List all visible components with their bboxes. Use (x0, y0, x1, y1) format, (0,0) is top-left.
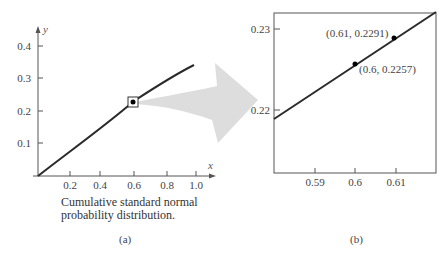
panel-b-label: (b) (350, 233, 363, 245)
x-tick-label: 0.6 (127, 179, 141, 191)
x-tick-label: 0.4 (93, 179, 107, 191)
caption-line-2: probability distribution. (61, 209, 198, 222)
b-x-tick-label: 0.6 (348, 176, 362, 188)
zoom-arrow-icon (136, 63, 258, 143)
y-axis-arrowhead-icon (36, 26, 41, 33)
b-x-tick-label: 0.59 (305, 176, 325, 188)
y-tick-label: 0.2 (17, 105, 31, 117)
y-tick-label: 0.3 (17, 72, 31, 84)
panel-a-caption: Cumulative standard normal probability d… (61, 196, 198, 222)
y-tick-label: 0.1 (17, 137, 31, 149)
point-0-6 (353, 62, 358, 67)
b-x-tick-label: 0.61 (386, 176, 405, 188)
cdf-curve (38, 65, 194, 176)
point-0-61 (392, 36, 397, 41)
x-tick-label: 0.8 (160, 179, 174, 191)
b-y-tick-label: 0.23 (251, 23, 271, 35)
highlight-point (131, 100, 136, 105)
point-0-61-label: (0.61, 0.2291) (326, 27, 389, 40)
y-axis-name: y (42, 23, 48, 35)
y-tick-label: 0.4 (17, 40, 31, 52)
x-axis-name: x (207, 159, 213, 171)
point-0-6-label: (0.6, 0.2257) (359, 63, 416, 76)
b-y-tick-label: 0.22 (251, 104, 270, 116)
panel-a-label: (a) (119, 233, 131, 245)
x-tick-label: 0.2 (63, 179, 77, 191)
x-axis-arrowhead-icon (209, 174, 216, 179)
x-tick-label: 1.0 (189, 179, 203, 191)
